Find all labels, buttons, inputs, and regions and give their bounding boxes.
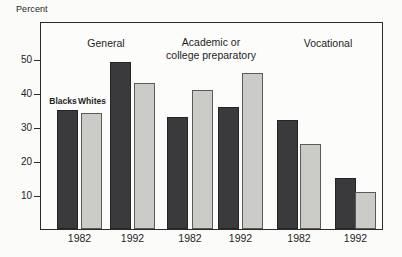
x-tick-label-3: 1992 — [219, 232, 263, 244]
group-label-vocational: Vocational — [278, 37, 378, 50]
x-axis-labels: 198219921982199219821992 — [0, 232, 402, 246]
bar-blacks-group1-1982 — [167, 117, 188, 229]
y-tick-label-20: 20 — [10, 156, 32, 168]
group-label-academic: Academic orcollege preparatory — [151, 36, 271, 62]
bar-whites-group2-1982 — [300, 144, 321, 229]
bar-chart: Percent General Academic orcollege prepa… — [0, 0, 402, 257]
y-tick-label-50: 50 — [10, 54, 32, 66]
y-axis-tick-30 — [34, 128, 40, 129]
bar-whites-group1-1992 — [242, 73, 263, 229]
y-tick-label-40: 40 — [10, 88, 32, 100]
group-label-academic-line1: Academic or — [182, 36, 240, 48]
x-tick-label-2: 1982 — [168, 232, 212, 244]
bar-whites-group1-1982 — [192, 90, 213, 229]
bar-blacks-group1-1992 — [218, 107, 239, 229]
bar-blacks-group2-1982 — [277, 120, 298, 229]
bar-blacks-group0-1982 — [57, 110, 78, 229]
bar-whites-group0-1982 — [81, 113, 102, 229]
y-axis-tick-40 — [34, 94, 40, 95]
x-tick-label-1: 1992 — [111, 232, 155, 244]
legend-label-whites: Whites — [75, 96, 109, 106]
group-label-general: General — [56, 37, 156, 50]
y-axis-tick-10 — [34, 196, 40, 197]
bar-blacks-group0-1992 — [110, 62, 131, 229]
bar-whites-group2-1992 — [355, 192, 376, 229]
x-tick-label-5: 1992 — [334, 232, 378, 244]
x-tick-label-0: 1982 — [58, 232, 102, 244]
y-tick-label-30: 30 — [10, 122, 32, 134]
y-axis-tick-20 — [34, 162, 40, 163]
y-axis-tick-50 — [34, 60, 40, 61]
y-axis-title: Percent — [16, 4, 48, 14]
group-label-academic-line2: college preparatory — [166, 49, 256, 61]
x-tick-label-4: 1982 — [277, 232, 321, 244]
bar-whites-group0-1992 — [134, 83, 155, 229]
bar-blacks-group2-1992 — [335, 178, 356, 229]
y-tick-label-10: 10 — [10, 190, 32, 202]
